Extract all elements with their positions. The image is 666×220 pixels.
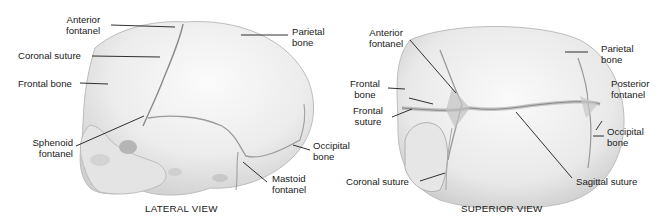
label-line: Parietal — [292, 26, 325, 37]
label-line: Frontal — [353, 105, 383, 116]
label-line: fontanel — [66, 25, 100, 36]
label-line: Occipital — [313, 140, 350, 151]
label-line: Anterior — [369, 27, 403, 38]
label-line: fontanel — [611, 89, 649, 100]
label-line: Frontal bone — [18, 78, 72, 89]
label-superior-parietal-bone: Parietal bone — [601, 43, 634, 65]
label-lateral-frontal-bone: Frontal bone — [18, 78, 72, 89]
label-line: bone — [292, 37, 325, 48]
label-line: Sphenoid — [26, 137, 73, 148]
label-line: Occipital — [607, 126, 644, 137]
label-lateral-occipital-bone: Occipital bone — [313, 140, 350, 162]
label-line: Coronal suture — [18, 50, 81, 61]
label-superior-frontal-bone: Frontal bone — [350, 78, 380, 100]
label-superior-anterior-fontanel: Anterior fontanel — [369, 27, 403, 49]
label-line: bone — [607, 137, 644, 148]
lateral-skull — [80, 22, 314, 196]
label-lateral-anterior-fontanel: Anterior fontanel — [66, 14, 100, 36]
label-superior-posterior-fontanel: Posterior fontanel — [611, 78, 649, 100]
label-line: bone — [350, 89, 380, 100]
label-line: Frontal — [350, 78, 380, 89]
label-lateral-parietal-bone: Parietal bone — [292, 26, 325, 48]
label-line: fontanel — [369, 38, 403, 49]
label-superior-sagittal-suture: Sagittal suture — [576, 176, 637, 187]
label-line: Posterior — [611, 78, 649, 89]
label-line: bone — [313, 151, 350, 162]
label-line: suture — [353, 116, 383, 127]
label-line: Mastoid — [272, 173, 306, 184]
label-line: bone — [601, 54, 634, 65]
label-line: fontanel — [272, 184, 306, 195]
label-superior-frontal-suture: Frontal suture — [353, 105, 383, 127]
label-superior-coronal-suture: Coronal suture — [346, 176, 409, 187]
label-line: Anterior — [66, 14, 100, 25]
label-line: Parietal — [601, 43, 634, 54]
label-lateral-coronal-suture: Coronal suture — [18, 50, 81, 61]
label-line: Sagittal suture — [576, 176, 637, 187]
label-line: Coronal suture — [346, 176, 409, 187]
label-lateral-sphenoid-fontanel: Sphenoid fontanel — [26, 137, 73, 159]
label-superior-occipital-bone: Occipital bone — [607, 126, 644, 148]
caption-lateral-view: LATERAL VIEW — [145, 203, 218, 214]
label-line: fontanel — [26, 148, 73, 159]
label-lateral-mastoid-fontanel: Mastoid fontanel — [272, 173, 306, 195]
caption-superior-view: SUPERIOR VIEW — [461, 203, 543, 214]
